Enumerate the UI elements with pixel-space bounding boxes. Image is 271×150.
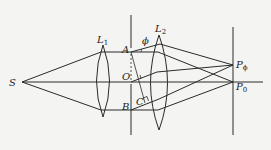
label-o: O <box>122 71 130 82</box>
ray-b-to-p0 <box>131 82 233 110</box>
label-b: B <box>121 101 129 112</box>
optics-diagram: S L1 L2 A O B C ϕ Pϕ P0 <box>0 0 271 150</box>
ray-s-lower <box>22 82 101 110</box>
label-p-phi: Pϕ <box>235 59 248 72</box>
label-c: C <box>136 96 144 107</box>
ray-a-to-p0 <box>131 52 233 82</box>
label-l1: L1 <box>96 34 108 47</box>
ray-s-upper <box>22 52 101 82</box>
label-phi: ϕ <box>142 35 149 46</box>
label-s: S <box>9 77 16 88</box>
label-a: A <box>121 44 129 55</box>
label-l2: L2 <box>154 23 166 36</box>
angle-arc-phi <box>141 49 142 52</box>
label-p-zero: P0 <box>235 81 247 94</box>
ray-o-to-pphi <box>131 65 233 82</box>
lens-l1 <box>97 45 110 117</box>
